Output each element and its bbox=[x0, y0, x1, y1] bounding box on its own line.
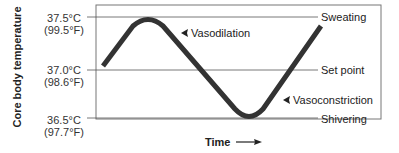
vasodilation-label: Vasodilation bbox=[191, 27, 250, 39]
vasoconstriction-arrow-icon bbox=[283, 96, 290, 104]
vasodilation-arrow-icon bbox=[181, 29, 188, 37]
sweating-label: Sweating bbox=[321, 11, 366, 23]
time-arrow-icon bbox=[254, 139, 262, 145]
x-axis-label: Time bbox=[205, 136, 230, 148]
vasoconstriction-label: Vasoconstriction bbox=[293, 94, 373, 106]
shivering-label: Shivering bbox=[321, 113, 367, 125]
set-point-label: Set point bbox=[321, 64, 364, 76]
